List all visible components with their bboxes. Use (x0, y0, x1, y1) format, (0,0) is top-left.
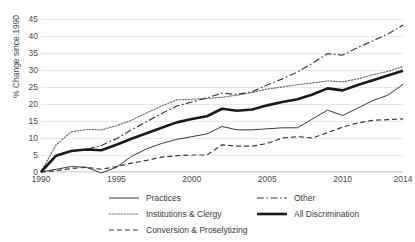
y-axis-tick-label: 10 (4, 134, 38, 143)
legend-item-label: Practices (146, 193, 181, 203)
series-line (41, 71, 403, 172)
legend-item-label: All Discrimination (294, 209, 359, 219)
series-line (41, 67, 403, 172)
legend-item[interactable]: Conversion & Proselytizing (108, 223, 248, 237)
x-axis-tick-labels: 199019952000200520102014 (41, 175, 403, 187)
plot-area (41, 19, 403, 172)
y-axis-tick-label: 35 (4, 49, 38, 58)
gridline (41, 172, 403, 173)
x-axis-tick-label: 2000 (172, 175, 212, 184)
legend-item-label: Conversion & Proselytizing (146, 225, 248, 235)
x-axis-tick-label: 2010 (323, 175, 363, 184)
legend-swatch-dashed-icon (108, 225, 140, 235)
y-axis-tick-label: 15 (4, 117, 38, 126)
x-axis-tick-label: 1990 (21, 175, 61, 184)
chart-legend: PracticesInstitutions & ClergyConversion… (108, 191, 408, 239)
y-axis-tick-label: 25 (4, 83, 38, 92)
legend-swatch-solid-thick-icon (256, 209, 288, 219)
legend-item-label: Institutions & Clergy (146, 209, 222, 219)
y-axis-tick-label: 20 (4, 100, 38, 109)
series-lines (41, 19, 403, 172)
y-axis-tick-label: 40 (4, 32, 38, 41)
y-axis-tick-labels: 454035302520151050 (0, 0, 38, 172)
legend-item[interactable]: All Discrimination (256, 207, 359, 221)
legend-item[interactable]: Practices (108, 191, 181, 205)
x-axis-tick-label: 2014 (383, 175, 415, 184)
legend-swatch-dash-dot-icon (256, 193, 288, 203)
legend-item[interactable]: Other (256, 191, 315, 205)
legend-item[interactable]: Institutions & Clergy (108, 207, 222, 221)
x-axis-tick-label: 2005 (247, 175, 287, 184)
legend-item-label: Other (294, 193, 315, 203)
y-axis-tick-label: 30 (4, 66, 38, 75)
legend-swatch-solid-thin-icon (108, 193, 140, 203)
y-axis-tick-label: 45 (4, 15, 38, 24)
legend-swatch-dotted-icon (108, 209, 140, 219)
line-chart: % Change since 1990 454035302520151050 1… (0, 0, 415, 242)
x-axis-tick-label: 1995 (96, 175, 136, 184)
y-axis-tick-label: 5 (4, 151, 38, 160)
